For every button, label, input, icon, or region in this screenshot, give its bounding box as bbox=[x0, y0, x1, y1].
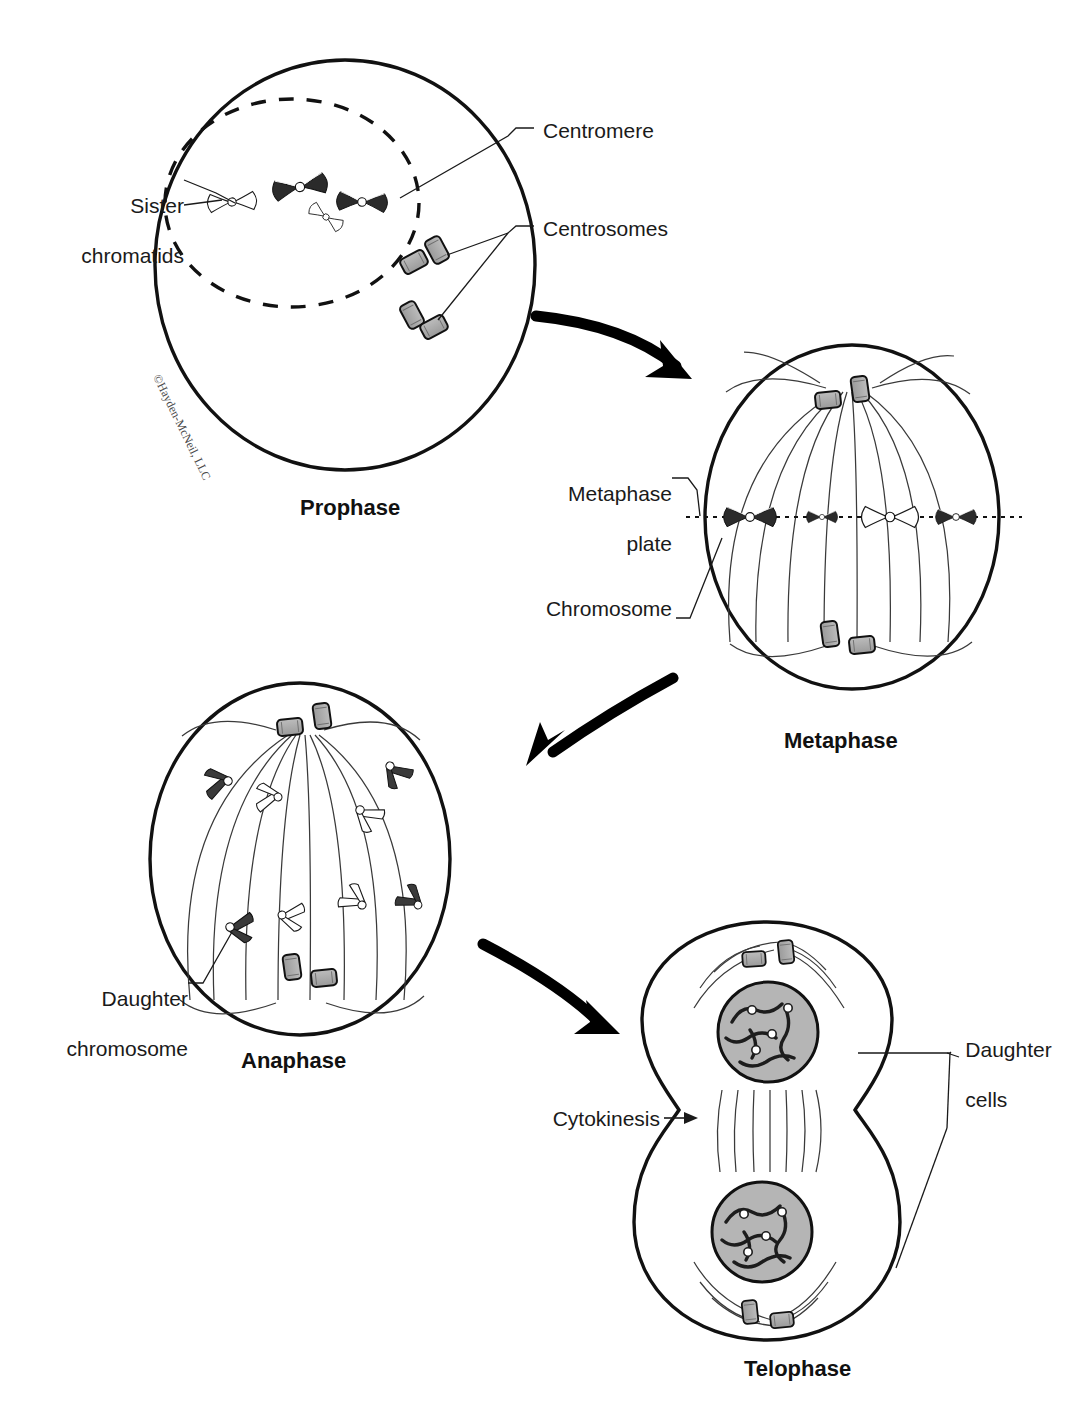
arrow-prophase-to-metaphase bbox=[536, 316, 692, 379]
label-sister-chromatids-line1: Sister bbox=[130, 194, 184, 217]
prophase-cell bbox=[155, 60, 535, 470]
label-daughter-cells-line2: cells bbox=[965, 1088, 1007, 1111]
phase-label-metaphase: Metaphase bbox=[784, 728, 898, 754]
telophase-nucleus-upper bbox=[718, 982, 818, 1082]
label-sister-chromatids: Sister chromatids bbox=[58, 168, 184, 293]
telophase-cell bbox=[634, 922, 959, 1340]
telophase-nucleus-lower bbox=[712, 1182, 812, 1282]
label-daughter-chromosome: Daughter chromosome bbox=[38, 961, 188, 1086]
phase-label-telophase: Telophase bbox=[744, 1356, 851, 1382]
label-centromere: Centromere bbox=[543, 118, 654, 143]
anaphase-cell bbox=[150, 683, 450, 1035]
label-cytokinesis: Cytokinesis bbox=[512, 1106, 660, 1131]
label-daughter-cells-line1: Daughter bbox=[965, 1038, 1051, 1061]
metaphase-cell bbox=[672, 345, 1022, 689]
label-chromosome: Chromosome bbox=[520, 596, 672, 621]
label-centrosomes: Centrosomes bbox=[543, 216, 668, 241]
phase-label-anaphase: Anaphase bbox=[241, 1048, 346, 1074]
label-metaphase-plate: Metaphase plate bbox=[520, 456, 672, 581]
label-daughter-chromosome-line1: Daughter bbox=[102, 987, 188, 1010]
label-daughter-chromosome-line2: chromosome bbox=[67, 1037, 188, 1060]
phase-label-prophase: Prophase bbox=[300, 495, 400, 521]
label-metaphase-plate-line1: Metaphase bbox=[568, 482, 672, 505]
mitosis-figure: Sister chromatids Centromere Centrosomes… bbox=[0, 0, 1069, 1418]
arrow-metaphase-to-anaphase bbox=[526, 678, 673, 766]
label-daughter-cells: Daughter cells bbox=[942, 1012, 1052, 1137]
label-sister-chromatids-line2: chromatids bbox=[81, 244, 184, 267]
label-metaphase-plate-line2: plate bbox=[626, 532, 672, 555]
arrow-anaphase-to-telophase bbox=[483, 944, 620, 1034]
nuclear-envelope-lower bbox=[712, 1182, 812, 1282]
